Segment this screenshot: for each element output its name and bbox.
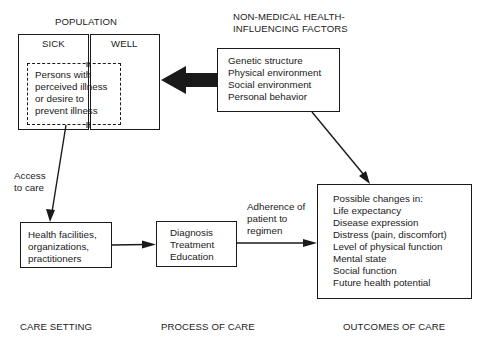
care-to-process-arrowhead [142,241,156,249]
connector-arrows [0,0,481,339]
join-ticks [87,62,90,128]
thick-left-arrow [161,66,217,94]
process-to-outcomes-arrowhead [303,239,317,247]
access-arrowhead [46,209,55,222]
factors-to-outcomes-arrowhead [359,171,370,184]
